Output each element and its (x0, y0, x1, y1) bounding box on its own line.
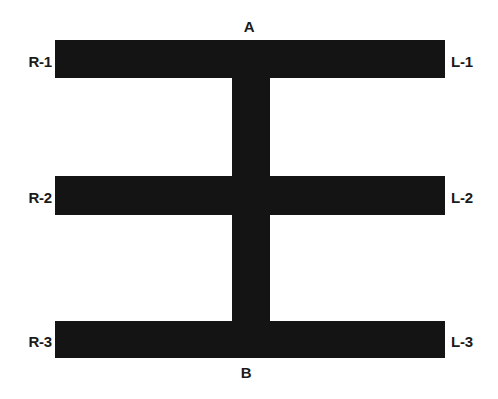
spine-bar (232, 40, 270, 358)
label-l2: L-2 (451, 190, 495, 205)
label-l3: L-3 (451, 334, 495, 349)
label-l1: L-1 (451, 54, 495, 69)
label-r3: R-3 (8, 334, 52, 349)
ladder-diagram-figure: R-1 R-2 R-3 L-1 L-2 L-3 A B (0, 0, 498, 399)
label-b: B (226, 365, 266, 380)
label-r2: R-2 (8, 190, 52, 205)
label-r1: R-1 (8, 54, 52, 69)
label-a: A (229, 19, 269, 34)
